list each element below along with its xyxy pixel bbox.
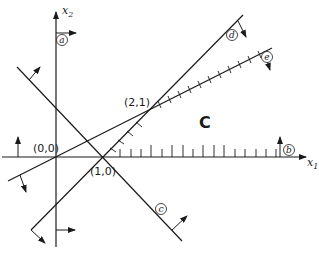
point-label-origin: (0,0) bbox=[33, 142, 59, 155]
constraint-label-d: d bbox=[227, 30, 238, 41]
hatching-x1 bbox=[120, 145, 276, 157]
svg-text:b: b bbox=[286, 145, 292, 155]
direction-arrows bbox=[18, 21, 280, 243]
constraint-label-e: e bbox=[262, 52, 273, 63]
x2-axis-label: x2 bbox=[62, 4, 73, 19]
x1-axis-label: x1 bbox=[307, 156, 318, 171]
constraint-line-e bbox=[8, 48, 272, 181]
point-label-2-1: (2,1) bbox=[124, 96, 150, 109]
svg-text:c: c bbox=[158, 204, 163, 214]
x1-axis: x1 bbox=[2, 156, 318, 171]
constraint-label-b: b bbox=[284, 145, 295, 156]
svg-text:e: e bbox=[264, 52, 269, 62]
point-label-1-0: (1,0) bbox=[90, 165, 116, 178]
hatching-e bbox=[158, 51, 261, 108]
svg-text:d: d bbox=[229, 30, 235, 40]
constraint-label-a: a bbox=[57, 35, 68, 46]
diagram-canvas: x2 x1 bbox=[0, 0, 319, 259]
region-label-c: C bbox=[199, 113, 211, 132]
svg-text:a: a bbox=[59, 35, 64, 45]
constraint-label-c: c bbox=[156, 204, 167, 215]
hatching-d bbox=[110, 122, 142, 152]
